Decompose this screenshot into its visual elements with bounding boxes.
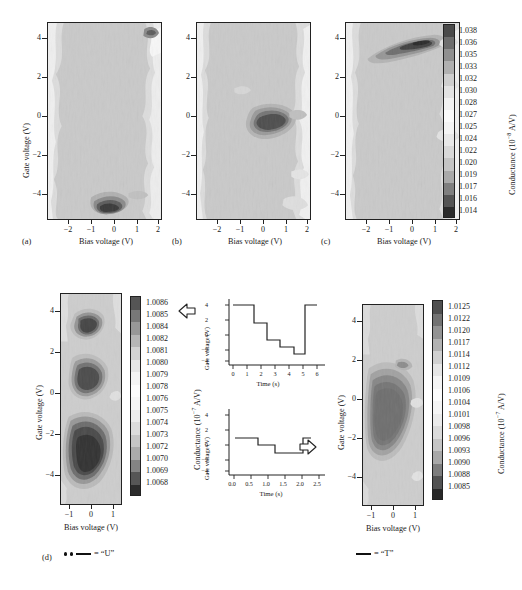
colorbar-d-tick-12: 1.0072 [146,442,168,451]
panel-a-ytick-3: −2 [27,150,41,159]
colorbar-e-tick-10: 1.0098 [448,422,470,431]
colorbar-e-tick-6: 1.0109 [448,374,470,383]
colorbar-e-tick-4: 1.0114 [448,350,470,359]
legend-t: = “T” [356,549,393,558]
panel-b-xtick-4: 2 [297,225,317,234]
panel-e-ytick-4: −4 [342,472,356,481]
panel-a-x-axis-label: Bias voltage (V) [56,237,156,246]
morse-dash-icon-2 [356,553,371,555]
panel-d-ytick-1: 2 [40,347,54,356]
panel-e-xtick-2: 1 [405,511,425,520]
panel-c-xtick-4: 2 [446,225,466,234]
colorbar-e-title-tail: A/V) [497,393,506,411]
panel-b-ytickmark-3 [191,155,196,156]
panel-e-xtickmark-0 [371,506,372,510]
colorbar-d-tick-10: 1.0074 [146,418,168,427]
panel-e-xtickmark-1 [393,506,394,510]
colorbar-top-tick-10: 1.022 [459,146,477,155]
colorbar-e-title-exponent: −7 [494,412,501,419]
colorbar-d-tick-11: 1.0073 [146,430,168,439]
colorbar-top-title-tail: A/V) [508,114,517,132]
colorbar-e-tick-3: 1.0117 [448,338,470,347]
panel-e-xtick-1: 0 [383,511,403,520]
legend-t-label: = “T” [374,549,393,558]
inset-u-xtick-3: 3 [269,370,281,377]
colorbar-e-title: Conductance (10−7 A/V) [494,393,506,474]
inset-t-ytick-2: 0 [200,441,208,448]
panel-b-xtick-0: −2 [207,225,227,234]
colorbar-top-tick-0: 1.038 [459,26,477,35]
panel-e-ytickmark-0 [357,321,362,322]
colorbar-d-tick-13: 1.0070 [146,454,168,463]
panel-a-heatmap[interactable] [47,22,162,220]
panel-a-xtickmark-1 [91,220,92,224]
colorbar-top-tick-11: 1.020 [459,158,477,167]
panel-b-ytickmark-0 [191,38,196,39]
panel-b-xtickmark-4 [307,220,308,224]
colorbar-top-tick-8: 1.025 [459,122,477,131]
inset-t-xtick-4: 2.0 [291,480,309,487]
panel-c-ytickmark-4 [340,194,345,195]
panel-d-x-axis-label: Bias voltage (V) [41,523,141,532]
colorbar-e-tick-8: 1.0104 [448,398,470,407]
panel-a-ytick-2: 0 [27,111,41,120]
right-arrow-icon [297,436,319,462]
colorbar-d-tick-9: 1.0075 [146,406,168,415]
panel-a-xtickmark-2 [114,220,115,224]
panel-a-ytick-1: 2 [27,72,41,81]
inset-t-ytick-3: −2 [198,456,208,463]
inset-t-xtick-0: 0.0 [223,480,241,487]
colorbar-e-gradient [432,300,443,500]
panel-d-xtick-2: 1 [103,510,123,519]
panel-a-xtick-0: −2 [58,225,78,234]
colorbar-top-tick-14: 1.016 [459,194,477,203]
inset-u-xtick-2: 2 [255,370,267,377]
colorbar-d-tick-1: 1.0085 [146,310,168,319]
panel-d-ytick-2: 0 [40,388,54,397]
panel-a-ytickmark-2 [42,116,47,117]
inset-u-xtick-5: 5 [297,370,309,377]
colorbar-top-tick-15: 1.014 [459,206,477,215]
colorbar-top-title: Conductance (10−8 A/V) [505,114,517,195]
panel-b-ytickmark-2 [191,116,196,117]
panel-e-ytick-0: 4 [342,316,356,325]
panel-c-label: (c) [321,237,330,246]
colorbar-e-tick-11: 1.0096 [448,434,470,443]
colorbar-e-tick-1: 1.0122 [448,314,470,323]
panel-d-ytick-4: −4 [40,470,54,479]
panel-b-ytick-1: 2 [176,72,190,81]
panel-b-heatmap[interactable] [196,22,311,220]
panel-c-ytick-4: −4 [325,189,339,198]
inset-u-ytick-2: 0 [200,331,208,338]
panel-e-xtick-0: −1 [361,511,381,520]
panel-a-ytick-0: 4 [27,33,41,42]
panel-c-ytick-3: −2 [325,150,339,159]
panel-d-heatmap[interactable] [60,293,122,505]
inset-t-xtick-3: 1.5 [274,480,292,487]
inset-t-x-axis-label: Time (s) [236,490,306,497]
panel-d-ytickmark-4 [55,475,60,476]
panel-c-xtickmark-2 [412,220,413,224]
panel-e-heatmap[interactable] [362,304,424,506]
colorbar-d-title-exponent: −7 [190,408,197,415]
inset-t-ytick-1: 2 [200,426,208,433]
inset-t-xtick-1: 0.5 [240,480,258,487]
panel-b-ytick-0: 4 [176,33,190,42]
colorbar-e-tick-9: 1.0101 [448,410,470,419]
inset-u-xtick-6: 6 [311,370,323,377]
panel-a-xtickmark-0 [68,220,69,224]
legend-u: = “U” [64,549,114,558]
panel-e-ytickmark-2 [357,399,362,400]
colorbar-e-tick-12: 1.0093 [448,446,470,455]
panel-a-xtick-3: 1 [127,225,147,234]
panel-e-x-axis-label: Bias voltage (V) [343,524,443,533]
panel-c-xtick-0: −2 [356,225,376,234]
panel-b-xtickmark-1 [240,220,241,224]
panel-a-xtickmark-3 [137,220,138,224]
colorbar-top-tick-13: 1.017 [459,182,477,191]
colorbar-d-tick-15: 1.0068 [146,478,168,487]
inset-u-x-axis-label: Time (s) [233,380,303,387]
panel-e-ytickmark-4 [357,477,362,478]
panel-d-ytickmark-3 [55,434,60,435]
colorbar-d-tick-8: 1.0076 [146,394,168,403]
